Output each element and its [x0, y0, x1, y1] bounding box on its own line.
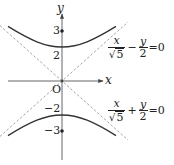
origin-label: O — [52, 84, 61, 95]
asymptote-equation-upper: x √5 − y 2 =0 — [107, 35, 165, 61]
asymptote-equation-lower: x √5 + y 2 =0 — [107, 98, 165, 124]
y-axis-label: y — [57, 2, 64, 14]
origin-point — [61, 80, 64, 83]
tick-label-3: 3 — [53, 25, 60, 36]
sqrt-symbol: √5 — [109, 48, 124, 60]
plus-operator: + — [127, 104, 136, 117]
fraction-y-over-2: y 2 — [139, 36, 148, 61]
sqrt-symbol: √5 — [109, 111, 124, 123]
fraction-y-over-2: y 2 — [139, 99, 148, 124]
tick-label-neg-3: −3 — [44, 125, 60, 136]
equals-zero: =0 — [149, 104, 165, 117]
x-axis-label: x — [105, 74, 112, 86]
tick-label-2: 2 — [53, 50, 60, 61]
tick-label-neg-2: −2 — [44, 103, 60, 114]
equals-zero: =0 — [149, 41, 165, 54]
hyperbola-diagram — [0, 0, 174, 165]
focus-point-lower — [60, 129, 64, 133]
minus-operator: − — [127, 41, 136, 54]
fraction-x-over-sqrt5: x √5 — [108, 98, 125, 124]
focus-point-upper — [60, 29, 64, 33]
fraction-x-over-sqrt5: x √5 — [108, 35, 125, 61]
